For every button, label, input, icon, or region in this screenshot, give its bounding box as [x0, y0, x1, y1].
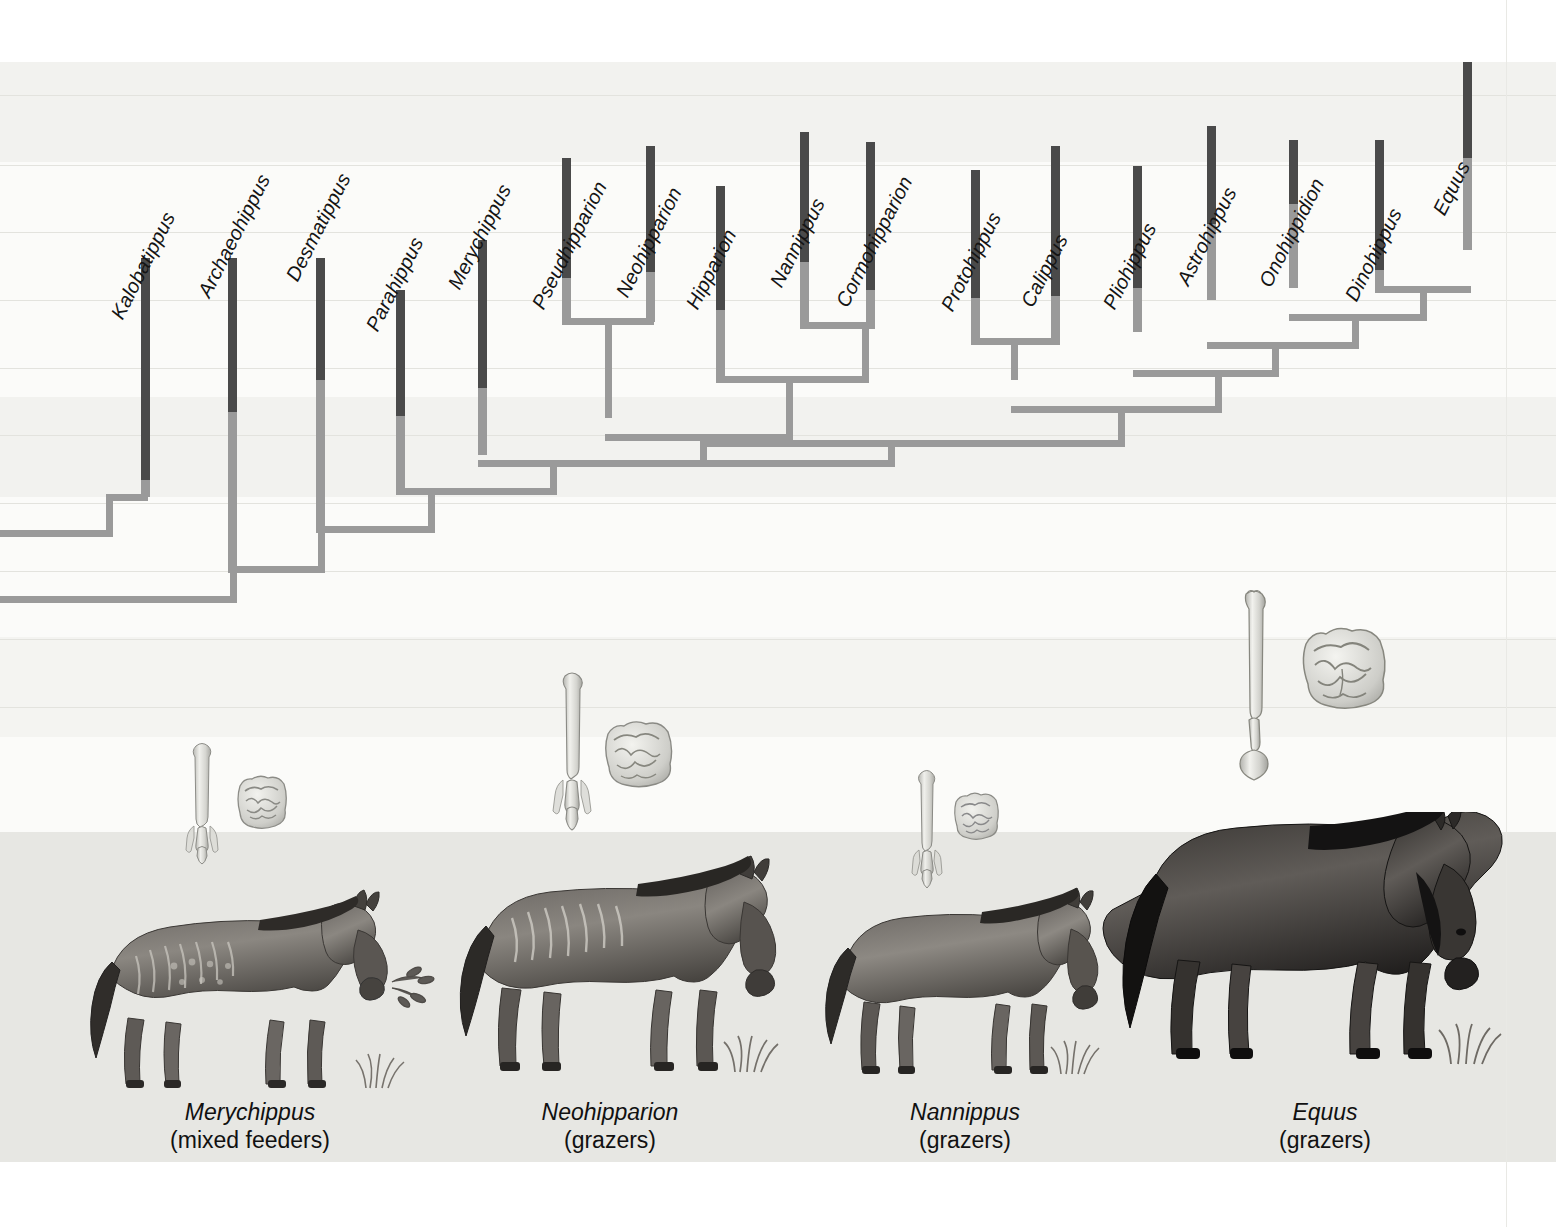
horse-neohipparion [440, 848, 830, 1096]
branch-h-kalo-outgroup [0, 530, 113, 537]
range-bar-kalobatippus [141, 258, 150, 497]
caption-genus-merychippus: Merychippus [90, 1098, 410, 1126]
band-bottom [0, 1162, 1556, 1227]
branch-v-desmatippus [318, 526, 325, 570]
caption-genus-equus: Equus [1165, 1098, 1485, 1126]
limb-bone-neohipparion [543, 670, 601, 838]
range-bar-equus [1463, 62, 1472, 250]
caption-diet-merychippus: (mixed feeders) [90, 1126, 410, 1154]
taxon-label-calippus: Calippus [1017, 231, 1073, 311]
branch-h-archaeohippus [228, 566, 325, 573]
horse-nannippus [810, 882, 1140, 1097]
branch-v-equine [1118, 406, 1125, 440]
range-bar-hipparion [716, 186, 725, 380]
cladogram: Kalobatippus Archaeohippus Desmatippus P… [0, 0, 1556, 640]
tooth-nannippus [950, 790, 1004, 844]
branch-h-equine [1011, 406, 1222, 413]
horse-equus [1100, 812, 1530, 1102]
branch-h-desmatippus [316, 526, 435, 533]
taxon-label-pliohippus: Pliohippus [1099, 219, 1162, 313]
horse-merychippus [70, 870, 460, 1095]
caption-neohipparion: Neohipparion (grazers) [450, 1098, 770, 1154]
branch-v-parahippus [428, 488, 435, 530]
caption-nannippus: Nannippus (grazers) [805, 1098, 1125, 1154]
taxon-label-nannippus: Nannippus [766, 195, 830, 291]
tooth-equus [1298, 624, 1398, 720]
branch-h-merychippus [478, 460, 895, 467]
caption-diet-neohipparion: (grazers) [450, 1126, 770, 1154]
branch-v-pseud-neo [605, 318, 612, 418]
range-bar-merychippus [478, 240, 487, 455]
branch-v-plio-clade [1215, 370, 1222, 410]
branch-v-hipp-clade [786, 376, 793, 438]
limb-bone-nannippus [903, 768, 951, 892]
branch-h-hipp-equine [700, 440, 1125, 447]
range-bar-parahippus [396, 290, 405, 490]
caption-diet-equus: (grazers) [1165, 1126, 1485, 1154]
caption-diet-nannippus: (grazers) [805, 1126, 1125, 1154]
branch-h-parahippus [396, 488, 557, 495]
caption-equus: Equus (grazers) [1165, 1098, 1485, 1154]
caption-merychippus: Merychippus (mixed feeders) [90, 1098, 410, 1154]
branch-v-nan-cormo [862, 322, 869, 380]
caption-genus-nannippus: Nannippus [805, 1098, 1125, 1126]
tooth-neohipparion [600, 718, 682, 796]
branch-h-root [0, 596, 237, 603]
limb-bone-equus [1228, 588, 1280, 784]
tooth-merychippus [232, 772, 294, 834]
range-bar-archaeohippus [228, 258, 237, 570]
limb-bone-merychippus [176, 740, 228, 870]
branch-h-plio-clade [1133, 370, 1279, 377]
branch-v-archaeohippus [230, 566, 237, 600]
figure-canvas: Kalobatippus Archaeohippus Desmatippus P… [0, 0, 1556, 1227]
taxon-label-hipparion: Hipparion [682, 225, 742, 313]
range-bar-desmatippus [316, 258, 325, 530]
caption-genus-neohipparion: Neohipparion [450, 1098, 770, 1126]
branch-h-astro-clade [1207, 342, 1359, 349]
taxon-label-parahippus: Parahippus [362, 234, 429, 335]
branch-v-proto-cali [1011, 338, 1018, 380]
